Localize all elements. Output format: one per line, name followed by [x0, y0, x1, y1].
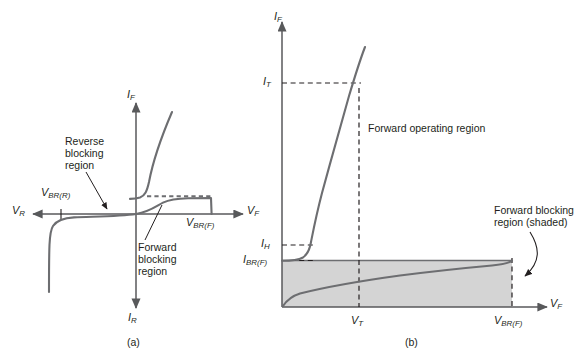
forward-blocking-line-2: blocking [138, 253, 177, 265]
panel-a-tick-label-vbrf: VBR(F) [186, 216, 214, 230]
scr-characteristic-curves-svg: V_F --> [0, 0, 586, 362]
panel-b-annotation-forward-operating-region: Forward operating region [368, 122, 485, 134]
label-vbrr-sub: BR(R) [48, 191, 70, 200]
panel-b-axis-label-if: IF [274, 10, 282, 24]
panel-a-annotation-reverse-blocking-region: Reverse blocking region [65, 135, 104, 172]
label-vf-sub: F [254, 209, 259, 218]
reverse-blocking-line-2: blocking [65, 147, 104, 159]
panel-b-tick-label-it: IT [263, 75, 271, 89]
label-vf-sub-b: F [557, 302, 562, 311]
label-it-sub: T [266, 80, 271, 89]
panel-a-axis-label-vr: VR [12, 204, 25, 218]
forward-blocking-shaded-line-2: region (shaded) [494, 216, 574, 228]
reverse-blocking-line-1: Reverse [65, 135, 104, 147]
panel-b-on-state-curve [282, 47, 365, 261]
panel-b-tick-label-ih: IH [261, 237, 270, 251]
label-vbrf-sub-a: BR(F) [193, 221, 214, 230]
panel-a-axis-label-vf: VF [247, 204, 259, 218]
panel-b-axis-label-vf: VF [550, 297, 562, 311]
panel-b [282, 22, 547, 307]
label-vr-sub: R [19, 209, 25, 218]
panel-a-caption: (a) [127, 336, 140, 348]
panel-b-tick-label-vbrf: VBR(F) [494, 314, 522, 328]
panel-a-axis-label-ir: IR [128, 311, 137, 325]
panel-b-tick-label-vt: VT [351, 314, 363, 328]
figure-root: V_F --> [0, 0, 586, 362]
panel-a-annotation-forward-blocking-region: Forward blocking region [138, 241, 177, 278]
panel-b-caption: (b) [405, 336, 418, 348]
label-ir-sub: R [131, 316, 137, 325]
label-ibrf-sub: BR(F) [246, 258, 267, 267]
label-vbrf-sub-b: BR(F) [501, 319, 522, 328]
panel-a-vi-curve [49, 198, 212, 292]
panel-b-tick-label-ibrf: IBR(F) [243, 253, 267, 267]
panel-a-tick-label-vbrr: VBR(R) [41, 186, 70, 200]
label-if-sub-b: F [277, 15, 282, 24]
forward-blocking-line-3: region [138, 265, 177, 277]
panel-b-leader-forward-blocking-shaded [525, 232, 537, 276]
label-vt-sub: T [358, 319, 363, 328]
reverse-blocking-line-3: region [65, 159, 104, 171]
label-if-sub: F [130, 93, 135, 102]
panel-b-annotation-forward-blocking-shaded: Forward blocking region (shaded) [494, 204, 574, 228]
panel-a-leader-reverse-blocking [86, 172, 107, 209]
forward-blocking-line-1: Forward [138, 241, 177, 253]
label-ih-sub: H [264, 242, 270, 251]
forward-blocking-shaded-line-1: Forward blocking [494, 204, 574, 216]
panel-a-axis-label-if: IF [127, 88, 135, 102]
